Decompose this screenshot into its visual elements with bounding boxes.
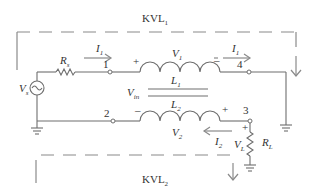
v1-plus: +	[133, 55, 139, 67]
kvl1-label: KVL1	[142, 12, 169, 27]
l1-label: L1	[170, 74, 181, 89]
kvl2-loop-path	[36, 155, 238, 183]
node-3	[248, 119, 252, 123]
ground-right-icon	[280, 125, 292, 131]
rs-label: Rs	[59, 54, 70, 69]
ground-load-icon	[244, 165, 256, 171]
vin-label: Vin	[127, 86, 140, 101]
top-left-wire	[37, 69, 108, 81]
v1-minus: –	[213, 54, 220, 66]
node-1	[108, 70, 112, 74]
v1-label: V1	[172, 47, 182, 62]
node-4-label: 4	[237, 58, 243, 70]
i2-label: I2	[214, 135, 223, 150]
v2-label: V2	[172, 126, 183, 141]
node-4	[247, 70, 251, 74]
i1-right-label: I1	[231, 42, 239, 57]
source-resistor-icon	[56, 69, 75, 75]
load-resistor-icon	[247, 132, 253, 156]
vs-label: Vs	[19, 82, 29, 97]
kvl2-label: KVL2	[142, 173, 169, 188]
circuit-diagram: KVL1 Rs I1 1 + V1 – I1 4	[0, 0, 319, 192]
ac-source-icon	[30, 81, 44, 95]
vl-plus: +	[242, 121, 248, 133]
i2-arrow-icon	[204, 127, 232, 135]
ground-left-icon	[31, 128, 43, 134]
kvl1-arrow-down-icon	[291, 56, 301, 76]
vl-label: VL	[234, 138, 245, 153]
v2-minus: –	[134, 104, 141, 116]
node-3-label: 3	[243, 104, 249, 116]
inductor-l1-icon	[140, 62, 220, 72]
node-2-label: 2	[104, 107, 110, 119]
i1-left-label: I1	[95, 42, 103, 57]
rl-label: RL	[261, 136, 273, 151]
node-1-label: 1	[103, 58, 109, 70]
node-2	[111, 119, 115, 123]
kvl2-arrow-down-icon	[228, 163, 238, 180]
v2-plus: +	[222, 103, 228, 115]
